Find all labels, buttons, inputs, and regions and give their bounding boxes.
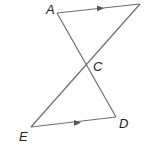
geometry-diagram: A C D E [0, 0, 144, 154]
point-label-a: A [45, 2, 55, 17]
point-label-c: C [93, 59, 103, 74]
segment-ed [31, 117, 116, 127]
point-label-d: D [119, 116, 128, 131]
segment-be [31, 4, 140, 127]
parallel-arrow-icon [97, 5, 104, 11]
point-label-e: E [19, 129, 28, 144]
diagram-canvas: A C D E [0, 0, 144, 154]
